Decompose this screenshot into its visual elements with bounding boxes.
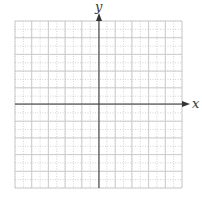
coordinate-plane: x y bbox=[0, 0, 202, 205]
x-axis-arrow-icon bbox=[182, 101, 190, 107]
x-axis-label: x bbox=[192, 96, 200, 111]
y-axis-label: y bbox=[94, 0, 103, 14]
y-axis-arrow-icon bbox=[96, 13, 102, 21]
axes: x y bbox=[15, 0, 200, 188]
